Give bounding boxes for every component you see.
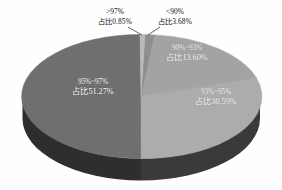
pie-label-93-95: 93%~95% 占比30.59% (180, 88, 252, 108)
pie-label-gt97-value: 占比0.85% (86, 17, 144, 27)
pie-label-95-97: 95%~97% 占比51.27% (57, 78, 129, 98)
pie-leader-line-group (128, 27, 160, 35)
leader-line-lt90 (148, 27, 160, 35)
leader-line-gt97 (128, 27, 142, 35)
pie-label-90-93-category: 90%~93% (151, 44, 223, 53)
pie-label-93-95-value: 占比30.59% (180, 97, 252, 107)
pie-label-95-97-category: 95%~97% (57, 78, 129, 87)
pie-chart-figure: >97% 占比0.85% <90% 占比3.68% 90%~93% 占比13.6… (0, 0, 282, 190)
pie-label-95-97-value: 占比51.27% (57, 87, 129, 97)
pie-label-lt90-value: 占比3.68% (146, 17, 204, 27)
pie-label-93-95-category: 93%~95% (180, 88, 252, 97)
pie-label-90-93-value: 占比13.60% (151, 53, 223, 63)
pie-label-lt90-category: <90% (146, 7, 204, 17)
pie-label-lt90: <90% 占比3.68% (146, 7, 204, 26)
pie-label-90-93: 90%~93% 占比13.60% (151, 44, 223, 64)
pie-label-gt97-category: >97% (86, 7, 144, 17)
pie-label-gt97: >97% 占比0.85% (86, 7, 144, 26)
